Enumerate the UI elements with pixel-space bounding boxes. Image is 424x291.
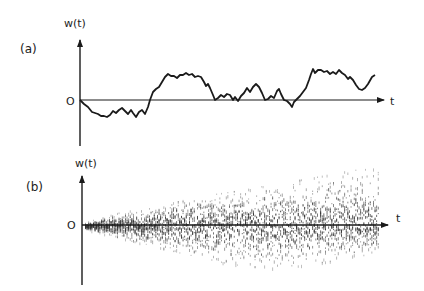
panel-b-origin: O xyxy=(67,219,76,232)
ensemble-dots xyxy=(85,168,379,271)
panel-b-xlabel: t xyxy=(396,212,401,225)
panel-a-ylabel: w(t) xyxy=(64,17,86,30)
panel-b-ylabel: w(t) xyxy=(75,157,97,170)
panel-a-xlabel: t xyxy=(390,95,395,108)
panel-a-origin: O xyxy=(66,95,75,108)
panel-a-tag: (a) xyxy=(20,42,37,56)
panel-a: (a) w(t) O t xyxy=(20,17,395,146)
panel-b: (b) w(t) O t xyxy=(26,157,401,285)
panel-b-tag: (b) xyxy=(26,180,43,194)
random-walk-path xyxy=(80,69,375,117)
figure: (a) w(t) O t (b) w(t) O t xyxy=(0,0,424,291)
